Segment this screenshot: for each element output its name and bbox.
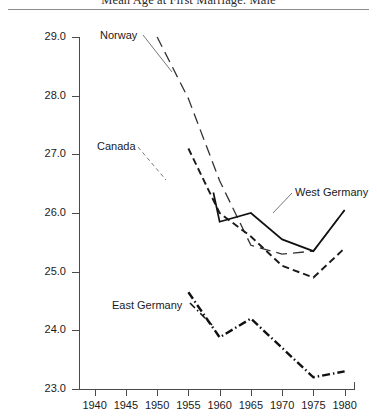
chart-plot-lines <box>0 0 377 417</box>
series-line-east-germany <box>188 292 344 377</box>
series-line-norway <box>157 37 345 254</box>
series-line-west-germany <box>213 192 344 251</box>
leader-line-west-germany <box>273 193 292 213</box>
leader-line-canada <box>138 147 166 180</box>
series-label-canada: Canada <box>97 140 136 152</box>
series-label-east-germany: East Germany <box>112 299 182 311</box>
series-label-west-germany: West Germany <box>295 186 368 198</box>
leader-line-norway <box>143 35 172 72</box>
series-line-canada <box>188 148 344 277</box>
series-label-norway: Norway <box>100 29 137 41</box>
